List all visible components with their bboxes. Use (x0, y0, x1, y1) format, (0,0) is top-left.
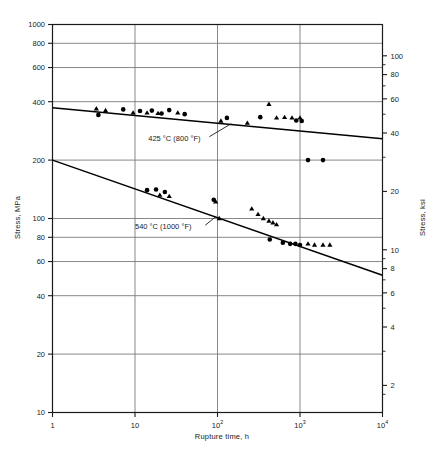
y-tick-label-left: 800 (32, 39, 45, 48)
x-axis-title: Rupture time, h (152, 432, 292, 441)
chart-plot-area: 1000800600400200100806040201010080604020… (0, 0, 439, 453)
data-point-circle (138, 109, 143, 114)
leader-line-425c (209, 124, 231, 137)
data-point-circle (281, 240, 286, 245)
y-tick-label-left: 200 (32, 156, 45, 165)
data-point-triangle (94, 106, 99, 110)
stress-rupture-chart: 1000800600400200100806040201010080604020… (0, 0, 439, 453)
y-axis-left: 10008006004002001008060402010 (28, 20, 52, 417)
data-point-triangle (282, 115, 287, 119)
y-tick-label-right: 20 (391, 187, 399, 196)
y-tick-label-left: 60 (37, 257, 45, 266)
data-point-triangle (266, 218, 271, 222)
data-point-triangle (175, 110, 180, 114)
data-point-triangle (167, 194, 172, 198)
y-axis-title-left: Stress, MPa (13, 188, 22, 248)
y-axis-right: 10080604020108642 (383, 52, 404, 395)
y-tick-label-right: 40 (391, 129, 399, 138)
data-point-triangle (312, 242, 317, 246)
y-tick-label-left: 40 (37, 292, 45, 301)
data-point-triangle (144, 110, 149, 114)
y-tick-label-left: 80 (37, 233, 45, 242)
annotations: 425 °C (800 °F)540 °C (1000 °F) (135, 124, 231, 232)
y-tick-label-right: 80 (391, 70, 399, 79)
scatter-series (157, 192, 332, 246)
data-point-triangle (218, 118, 223, 122)
curve-label-540c: 540 °C (1000 °F) (135, 222, 192, 231)
y-tick-label-right: 4 (391, 323, 395, 332)
data-point-circle (288, 242, 293, 247)
x-tick-label: 1 (50, 421, 54, 430)
y-tick-label-left: 10 (37, 408, 45, 417)
data-point-circle (154, 187, 159, 192)
data-point-triangle (297, 115, 302, 119)
data-point-triangle (305, 241, 310, 245)
data-point-circle (167, 108, 172, 113)
data-point-circle (293, 242, 298, 247)
x-tick-exponent: 3 (303, 419, 306, 425)
data-point-circle (225, 116, 230, 121)
data-point-triangle (245, 120, 250, 124)
y-tick-label-left: 600 (32, 63, 45, 72)
leader-line-540c (205, 216, 216, 225)
data-point-triangle (157, 192, 162, 196)
y-tick-label-right: 8 (391, 264, 395, 273)
data-point-triangle (255, 212, 260, 216)
data-point-triangle (249, 206, 254, 210)
data-point-circle (163, 190, 168, 195)
x-tick-exponent: 4 (385, 419, 388, 425)
y-tick-label-left: 400 (32, 98, 45, 107)
y-axis-title-right: Stress, ksi (418, 188, 427, 248)
data-point-triangle (327, 242, 332, 246)
data-point-triangle (274, 115, 279, 119)
y-tick-label-left: 100 (32, 214, 45, 223)
y-tick-label-left: 1000 (28, 20, 45, 29)
y-tick-label-right: 100 (391, 52, 404, 61)
data-point-circle (150, 108, 155, 113)
x-tick-exponent: 2 (220, 419, 223, 425)
data-point-circle (321, 158, 326, 163)
data-point-triangle (261, 216, 266, 220)
data-point-circle (96, 113, 101, 118)
y-tick-label-right: 10 (391, 246, 399, 255)
data-point-circle (267, 237, 272, 242)
data-point-circle (182, 112, 187, 117)
data-point-circle (298, 243, 303, 248)
data-point-circle (121, 107, 126, 112)
data-point-triangle (320, 242, 325, 246)
x-tick-label: 103 (294, 419, 305, 430)
x-axis: 110102103104 (50, 413, 388, 430)
x-tick-label: 104 (377, 419, 388, 430)
curve-label-425c: 425 °C (800 °F) (148, 134, 201, 143)
x-tick-label: 102 (212, 419, 223, 430)
y-tick-label-right: 6 (391, 289, 395, 298)
data-point-circle (145, 188, 150, 193)
data-point-triangle (289, 115, 294, 119)
y-tick-label-left: 20 (37, 350, 45, 359)
y-tick-label-right: 2 (391, 381, 395, 390)
data-point-triangle (266, 102, 271, 106)
x-tick-label: 10 (131, 421, 139, 430)
grid-lines (53, 25, 383, 413)
data-point-circle (258, 115, 263, 120)
data-point-circle (306, 158, 311, 163)
y-tick-label-right: 60 (391, 95, 399, 104)
data-point-triangle (103, 108, 108, 112)
